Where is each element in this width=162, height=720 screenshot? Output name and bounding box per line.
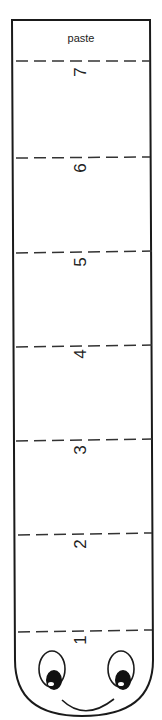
segment-6-label: 6 bbox=[0, 158, 162, 178]
segment-5-label: 5 bbox=[0, 252, 162, 272]
caterpillar-strip: paste 7 6 5 4 3 2 1 bbox=[0, 0, 162, 720]
segment-3-label: 3 bbox=[0, 440, 162, 460]
paste-label: paste bbox=[12, 32, 150, 44]
segment-2-label: 2 bbox=[0, 534, 162, 554]
segment-1-label: 1 bbox=[0, 630, 162, 650]
segment-7-label: 7 bbox=[0, 62, 162, 82]
segment-4-label: 4 bbox=[0, 344, 162, 364]
